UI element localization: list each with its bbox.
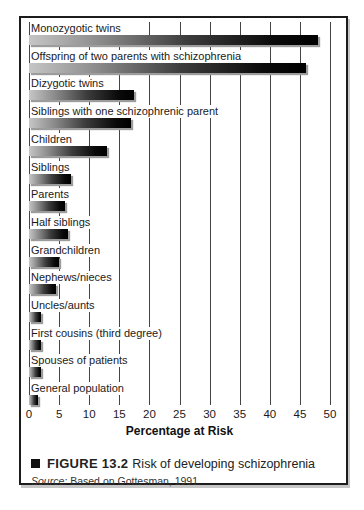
category-label: Offspring of two parents with schizophre… — [31, 50, 245, 63]
risk-bar — [29, 35, 318, 45]
category-label: Grandchildren — [31, 244, 104, 257]
category-label: Parents — [31, 188, 73, 201]
gridline-50 — [330, 22, 331, 405]
x-axis-label: Percentage at Risk — [29, 424, 330, 438]
source-text: Based on Gottesman, 1991. — [70, 475, 201, 487]
risk-bar — [29, 395, 38, 405]
figure-box: 05101520253035404550Monozygotic twinsOff… — [19, 16, 348, 485]
category-label: Children — [31, 133, 76, 146]
category-label: Dizygotic twins — [31, 77, 108, 90]
risk-bar — [29, 201, 65, 211]
risk-bar — [29, 146, 107, 156]
source-line: Source:Based on Gottesman, 1991. — [31, 475, 201, 487]
risk-bar — [29, 284, 56, 294]
caption-square-icon — [31, 459, 40, 468]
risk-bar — [29, 90, 134, 100]
x-tick-label-10: 10 — [83, 408, 96, 420]
x-tick-label-50: 50 — [324, 408, 337, 420]
category-label: General population — [31, 382, 128, 395]
risk-bar — [29, 367, 41, 377]
x-tick-label-30: 30 — [203, 408, 216, 420]
category-label: First cousins (third degree) — [31, 327, 166, 340]
x-tick-label-5: 5 — [56, 408, 62, 420]
x-tick-label-45: 45 — [293, 408, 306, 420]
caption-text: Risk of developing schizophrenia — [132, 457, 315, 471]
gridline-35 — [240, 22, 241, 405]
source-prefix: Source: — [31, 475, 67, 487]
risk-bar — [29, 229, 68, 239]
bar-chart-plot: 05101520253035404550Monozygotic twinsOff… — [29, 22, 330, 406]
category-label: Uncles/aunts — [31, 299, 99, 312]
category-label: Siblings — [31, 161, 74, 174]
category-label: Half siblings — [31, 216, 94, 229]
category-label: Spouses of patients — [31, 354, 132, 367]
category-label: Nephews/nieces — [31, 271, 116, 284]
category-label: Siblings with one schizophrenic parent — [31, 105, 222, 118]
risk-bar — [29, 257, 59, 267]
gridline-40 — [270, 22, 271, 405]
category-label: Monozygotic twins — [31, 22, 125, 35]
gridline-20 — [149, 22, 150, 405]
risk-bar — [29, 174, 71, 184]
x-tick-label-35: 35 — [233, 408, 246, 420]
figure-caption: FIGURE 13.2Risk of developing schizophre… — [31, 456, 315, 471]
risk-bar — [29, 312, 41, 322]
gridline-25 — [180, 22, 181, 405]
risk-bar — [29, 340, 41, 350]
x-tick-label-20: 20 — [143, 408, 156, 420]
figure-number: FIGURE 13.2 — [47, 456, 128, 471]
risk-bar — [29, 63, 306, 73]
x-tick-label-25: 25 — [173, 408, 186, 420]
x-tick-label-0: 0 — [26, 408, 32, 420]
risk-bar — [29, 118, 131, 128]
gridline-45 — [300, 22, 301, 405]
gridline-30 — [210, 22, 211, 405]
x-tick-label-40: 40 — [263, 408, 276, 420]
gridline-15 — [119, 22, 120, 405]
x-tick-label-15: 15 — [113, 408, 126, 420]
